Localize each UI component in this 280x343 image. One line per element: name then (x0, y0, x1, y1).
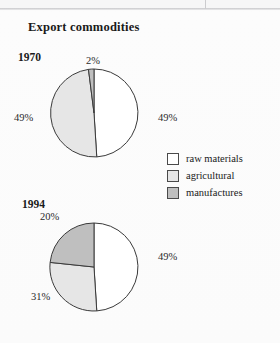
page-top-margin (0, 0, 280, 8)
legend-item-agricultural: agricultural (167, 167, 243, 184)
pie-slice-1970-raw-materials (94, 69, 138, 157)
legend-label-agricultural: agricultural (186, 170, 234, 181)
legend-swatch-raw-materials (167, 153, 179, 165)
pie-slice-1994-raw-materials (94, 223, 138, 311)
legend-swatch-agricultural (167, 170, 179, 182)
slice-label-1970-agricultural: 49% (14, 112, 33, 123)
pie-slice-1994-manufactures (50, 223, 94, 267)
scanned-page: Export commodities 1970 2% 49% 49% raw m… (0, 0, 280, 343)
pie-chart-1970 (48, 67, 140, 159)
slice-label-1970-raw-materials: 49% (158, 112, 177, 123)
year-label-1970: 1970 (18, 51, 41, 63)
legend-swatch-manufactures (167, 187, 179, 199)
legend-item-manufactures: manufactures (167, 184, 243, 201)
legend-label-raw-materials: raw materials (186, 153, 243, 164)
legend-item-raw-materials: raw materials (167, 150, 243, 167)
slice-label-1970-manufactures: 2% (86, 55, 100, 66)
pie-slice-1994-agricultural (50, 262, 97, 311)
page-edge-tick (205, 0, 206, 9)
page-edge-line-shadow (0, 9, 280, 10)
legend: raw materials agricultural manufactures (167, 150, 243, 201)
pie-chart-1994 (48, 221, 140, 313)
year-label-1994: 1994 (22, 198, 45, 210)
slice-label-1994-raw-materials: 49% (158, 251, 177, 262)
page-title: Export commodities (28, 20, 140, 35)
legend-label-manufactures: manufactures (186, 187, 243, 198)
